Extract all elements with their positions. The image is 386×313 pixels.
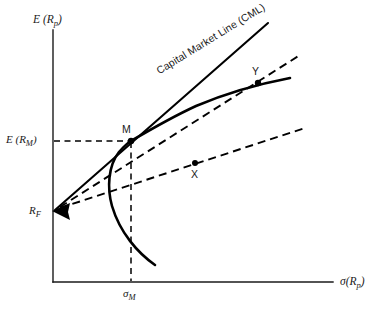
x-axis-label-close: ) [361, 275, 365, 287]
riskfree-tick-text: R [29, 204, 36, 216]
point-label-y: Y [252, 66, 259, 77]
market-return-tick-close: ) [33, 133, 37, 145]
y-axis-label-e: E [33, 13, 40, 25]
riskfree-tick-sub: F [36, 209, 41, 219]
market-sigma-tick-sub: M [128, 292, 135, 302]
efficient-frontier-curve [109, 78, 290, 265]
point-label-m: M [122, 124, 131, 135]
y-axis-label-open: (R [40, 13, 54, 25]
market-return-tick-sub: M [26, 138, 33, 148]
marker-dot-x [192, 160, 198, 166]
point-label-x: X [191, 169, 198, 180]
capital-market-line [55, 23, 268, 210]
market-sigma-tick-label: σM [123, 288, 136, 302]
riskfree-tick-label: RF [29, 205, 41, 219]
market-return-tick-label: E (RM) [6, 134, 37, 148]
market-return-tick-text: E (R [6, 133, 26, 145]
marker-dot-y [255, 80, 261, 86]
ray-through-x [60, 128, 305, 208]
x-axis-label-open: (R [346, 275, 357, 287]
cml-diagram-figure: E (Rp) σ(Rp) E (RM) RF σM M X Y Capital … [0, 0, 386, 313]
ray-through-y [60, 55, 300, 207]
x-axis-label: σ(Rp) [340, 276, 365, 290]
y-axis-label: E (Rp) [33, 14, 62, 28]
marker-dot-m [128, 138, 134, 144]
y-axis-label-close: ) [58, 13, 62, 25]
